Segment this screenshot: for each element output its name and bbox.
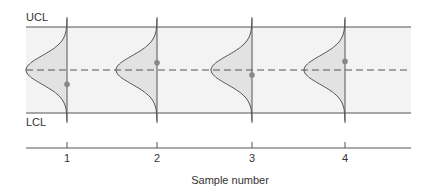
x-axis-label: Sample number: [191, 174, 269, 186]
x-tick-label-3: 3: [249, 152, 255, 164]
control-chart: UCL LCL 1234 Sample number: [0, 0, 429, 195]
x-tick-label-4: 4: [342, 152, 348, 164]
lcl-label: LCL: [26, 116, 46, 128]
sample-point-4: [342, 59, 348, 65]
sample-point-2: [154, 60, 160, 66]
x-tick-label-1: 1: [64, 152, 70, 164]
ucl-label: UCL: [26, 11, 48, 23]
x-tick-label-2: 2: [154, 152, 160, 164]
sample-point-1: [64, 82, 70, 88]
sample-point-3: [249, 72, 255, 78]
